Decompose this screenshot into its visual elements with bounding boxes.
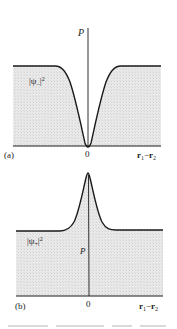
- panel-a-label: (a): [4, 150, 14, 160]
- panel-b-x-axis-label: r1−r2: [139, 301, 158, 312]
- panel-a: P |ψ−|2 (a) 0 r1−r2: [4, 27, 161, 161]
- panel-a-x-axis-label: r1−r2: [137, 150, 156, 161]
- panel-a-y-axis-label: P: [77, 27, 84, 38]
- panel-b-label: (b): [15, 301, 26, 311]
- panel-b-y-axis: [89, 175, 90, 296]
- panel-b-origin-label: 0: [86, 299, 91, 309]
- probability-diagram: P |ψ−|2 (a) 0 r1−r2 P |ψ+|2 (b) 0 r1−r2: [0, 0, 177, 329]
- panel-a-origin-label: 0: [85, 149, 90, 159]
- panel-b-shaded-area: [16, 173, 163, 296]
- panel-b: P |ψ+|2 (b) 0 r1−r2: [15, 173, 163, 312]
- panel-b-y-axis-label: P: [79, 246, 86, 256]
- cropped-caption-fragment: [8, 325, 166, 327]
